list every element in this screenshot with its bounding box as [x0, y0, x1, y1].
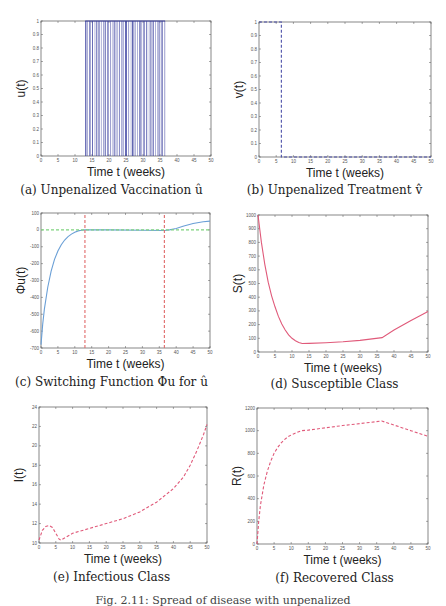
- y-tick-label: 1000: [245, 428, 256, 433]
- x-tick-label: 10: [289, 546, 295, 551]
- figure-caption: Fig. 2.11: Spread of disease with unpena…: [0, 594, 446, 606]
- caption-b: (b) Unpenalized Treatment v̂: [223, 183, 446, 197]
- y-tick-label: 400: [247, 496, 255, 501]
- y-tick-label: 1200: [245, 406, 256, 411]
- x-tick-label: 50: [425, 546, 431, 551]
- x-tick-label: 15: [306, 546, 312, 551]
- y-axis-label: R(t): [230, 466, 244, 486]
- x-axis-label: Time t (weeks): [303, 553, 381, 567]
- y-tick-label: 800: [247, 451, 255, 456]
- y-tick-label: 600: [247, 474, 255, 479]
- y-tick-label: 200: [247, 519, 255, 524]
- caption-e: (e) Infectious Class: [0, 570, 223, 584]
- caption-d: (d) Susceptible Class: [223, 377, 446, 391]
- x-tick-label: 35: [374, 546, 380, 551]
- caption-a: (a) Unpenalized Vaccination û: [0, 183, 223, 197]
- x-tick-label: 20: [323, 546, 329, 551]
- x-tick-label: 0: [256, 546, 259, 551]
- x-tick-label: 30: [357, 546, 363, 551]
- series-line: [257, 421, 428, 544]
- caption-c: (c) Switching Function Φu for û: [0, 375, 223, 389]
- x-tick-label: 25: [340, 546, 346, 551]
- x-tick-label: 5: [273, 546, 276, 551]
- x-tick-label: 40: [391, 546, 397, 551]
- x-tick-label: 45: [408, 546, 414, 551]
- caption-f: (f) Recovered Class: [223, 571, 446, 585]
